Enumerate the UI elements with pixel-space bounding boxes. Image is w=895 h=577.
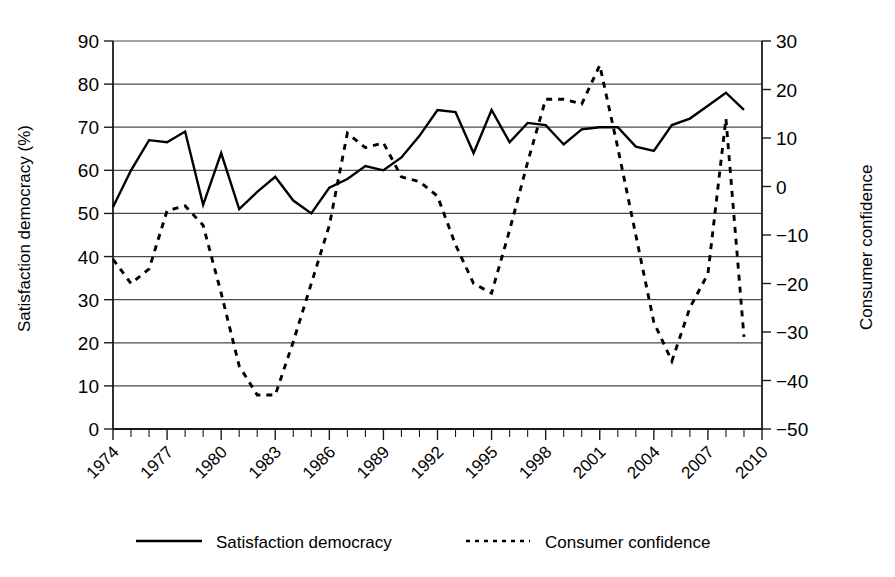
x-tick-label: 2004: [623, 442, 663, 482]
legend-label-satisfaction-democracy: Satisfaction democracy: [216, 533, 392, 552]
left-tick-label: 30: [78, 290, 99, 311]
x-tick-label: 1995: [461, 442, 501, 482]
legend-label-consumer-confidence: Consumer confidence: [545, 533, 710, 552]
left-tick-label: 20: [78, 333, 99, 354]
left-tick-label: 10: [78, 376, 99, 397]
x-tick-label: 2010: [732, 442, 772, 482]
left-tick-label: 90: [78, 31, 99, 52]
x-tick-label: 1974: [83, 442, 123, 482]
right-tick-label: 0: [776, 177, 787, 198]
series-satisfaction-democracy: [113, 93, 744, 214]
x-tick-label: 2007: [678, 442, 718, 482]
left-tick-label: 50: [78, 203, 99, 224]
x-tick-label: 1989: [353, 442, 393, 482]
right-tick-label: −10: [776, 225, 808, 246]
x-axis-tickmarks: [113, 429, 762, 440]
right-tick-label: −20: [776, 274, 808, 295]
gridlines-group: [113, 41, 762, 386]
right-tick-label: 20: [776, 80, 797, 101]
left-axis-title: Satisfaction democracy (%): [15, 125, 34, 332]
left-axis-tick-labels: 0102030405060708090: [78, 31, 99, 440]
x-tick-label: 1980: [191, 442, 231, 482]
left-tick-label: 60: [78, 160, 99, 181]
right-axis-title: Consumer confidence: [857, 165, 876, 330]
right-axis-tick-labels: −50−40−30−20−100102030: [776, 31, 808, 440]
chart-figure: 0102030405060708090 −50−40−30−20−1001020…: [0, 0, 895, 577]
legend: Satisfaction democracy Consumer confiden…: [136, 533, 710, 552]
right-tick-label: 10: [776, 128, 797, 149]
x-tick-label: 1986: [299, 442, 339, 482]
dual-axis-line-chart: 0102030405060708090 −50−40−30−20−1001020…: [0, 0, 895, 577]
x-axis-tick-labels: 1974197719801983198619891992199519982001…: [83, 442, 772, 482]
left-tick-label: 70: [78, 117, 99, 138]
x-tick-label: 1983: [245, 442, 285, 482]
x-tick-label: 2001: [569, 442, 609, 482]
right-tick-label: 30: [776, 31, 797, 52]
right-tick-label: −50: [776, 419, 808, 440]
right-axis-tickmarks: [762, 41, 771, 429]
left-tick-label: 0: [88, 419, 99, 440]
left-tick-label: 80: [78, 74, 99, 95]
right-tick-label: −40: [776, 371, 808, 392]
x-tick-label: 1992: [407, 442, 447, 482]
series-consumer-confidence: [113, 65, 744, 395]
left-tick-label: 40: [78, 247, 99, 268]
left-axis-tickmarks: [104, 41, 113, 429]
x-tick-label: 1977: [137, 442, 177, 482]
x-tick-label: 1998: [515, 442, 555, 482]
right-tick-label: −30: [776, 322, 808, 343]
